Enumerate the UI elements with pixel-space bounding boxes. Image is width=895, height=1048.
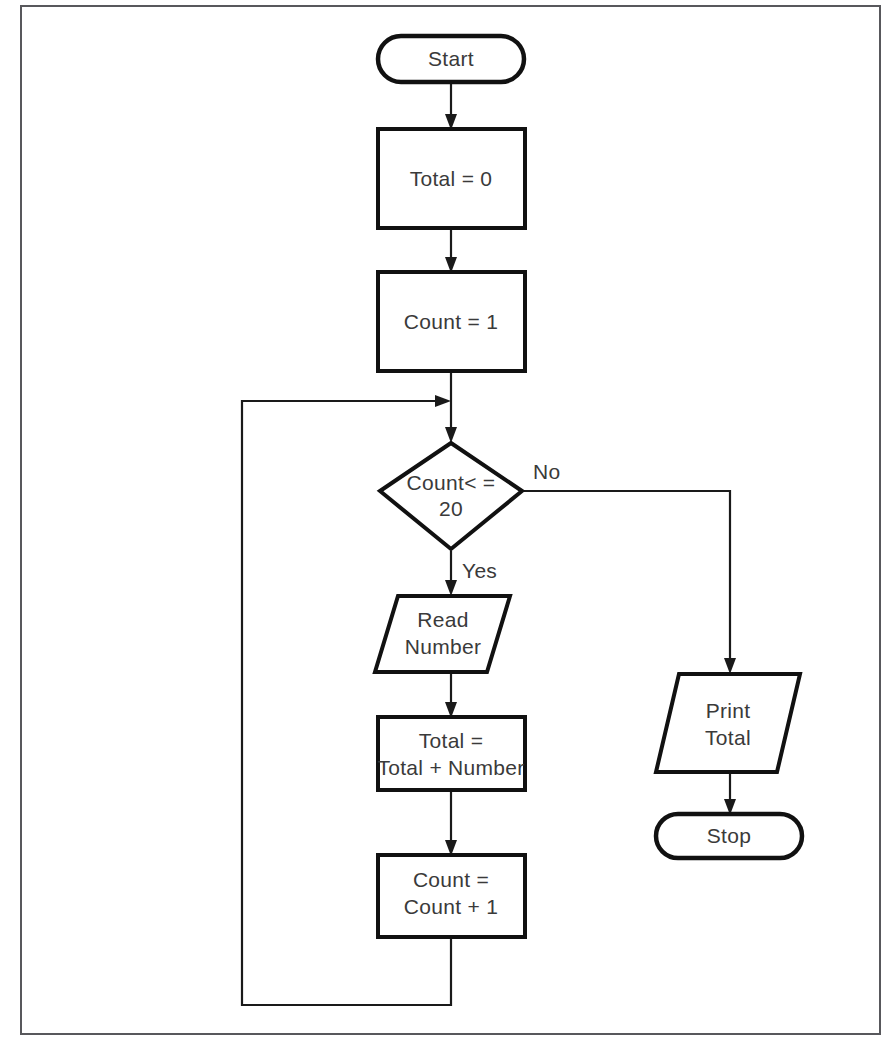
connector-start-to-total bbox=[445, 82, 457, 130]
node-start[interactable]: Start bbox=[378, 36, 524, 82]
increment-label-line2: Count + 1 bbox=[404, 895, 498, 918]
node-increment[interactable]: Count = Count + 1 bbox=[378, 855, 525, 937]
branch-label-no: No bbox=[533, 460, 560, 483]
connector-total-to-count bbox=[445, 228, 457, 273]
node-stop[interactable]: Stop bbox=[656, 814, 802, 858]
flowchart-canvas: Start Total = 0 Count = 1 Count< = 20 Ye… bbox=[0, 0, 895, 1048]
connector-read-to-accumulate bbox=[445, 672, 457, 718]
connector-accumulate-to-increment bbox=[445, 790, 457, 856]
node-accumulate[interactable]: Total = Total + Number bbox=[377, 717, 525, 790]
connector-print-to-stop bbox=[724, 772, 736, 815]
node-decision[interactable]: Count< = 20 bbox=[380, 443, 522, 549]
connector-no-to-print bbox=[522, 491, 736, 674]
decision-label-line2: 20 bbox=[439, 497, 463, 520]
decision-label-line1: Count< = bbox=[407, 471, 496, 494]
stop-label: Stop bbox=[707, 824, 751, 847]
node-init-total[interactable]: Total = 0 bbox=[378, 129, 525, 228]
read-number-label-line1: Read bbox=[417, 608, 468, 631]
node-read-number[interactable]: Read Number bbox=[375, 596, 510, 672]
branch-label-yes: Yes bbox=[462, 559, 497, 582]
connector-yes-to-read bbox=[445, 551, 457, 596]
read-number-label-line2: Number bbox=[405, 635, 482, 658]
print-total-label-line2: Total bbox=[705, 726, 751, 749]
node-print-total[interactable]: Print Total bbox=[656, 674, 800, 772]
increment-label-line1: Count = bbox=[413, 868, 489, 891]
print-total-label-line1: Print bbox=[706, 699, 751, 722]
accumulate-label-line2: Total + Number bbox=[377, 756, 524, 779]
init-count-label: Count = 1 bbox=[404, 310, 498, 333]
init-total-label: Total = 0 bbox=[410, 167, 493, 190]
start-label: Start bbox=[428, 47, 474, 70]
flowchart-diagram: Start Total = 0 Count = 1 Count< = 20 Ye… bbox=[0, 0, 895, 1048]
node-init-count[interactable]: Count = 1 bbox=[378, 272, 525, 371]
connector-count-to-decision bbox=[445, 371, 457, 443]
accumulate-label-line1: Total = bbox=[419, 729, 484, 752]
print-total-parallelogram-shape bbox=[656, 674, 800, 772]
